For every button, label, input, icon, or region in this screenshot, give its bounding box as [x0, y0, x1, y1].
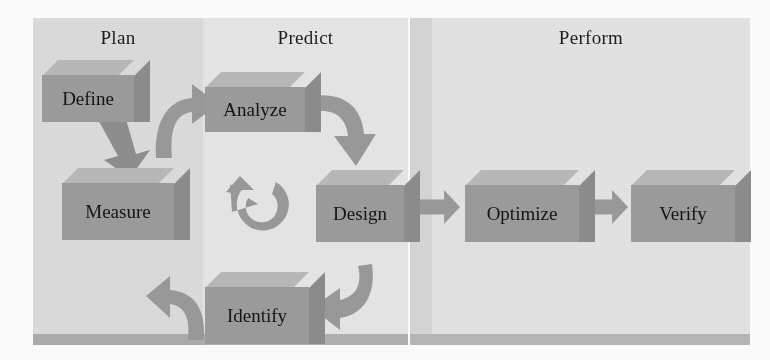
step-box-measure[interactable]: Measure [62, 168, 174, 240]
connector-identify-to-measure [140, 262, 212, 342]
step-label-define: Define [42, 75, 134, 122]
step-label-optimize: Optimize [465, 185, 579, 242]
phase-label-predict: Predict [203, 27, 408, 49]
diagram-canvas: Plan Predict Perform [0, 0, 770, 360]
step-box-analyze[interactable]: Analyze [205, 72, 305, 132]
box-top-face [465, 170, 579, 186]
box-top-face [205, 272, 309, 288]
phase-label-plan: Plan [33, 27, 203, 49]
step-label-analyze: Analyze [205, 87, 305, 132]
panel-baseline-perform [410, 334, 750, 345]
step-label-design: Design [316, 185, 404, 242]
phase-label-perform: Perform [432, 27, 750, 49]
box-top-face [205, 72, 305, 88]
box-top-face [62, 168, 174, 184]
step-label-identify: Identify [205, 287, 309, 344]
connector-iteration-loop [224, 176, 296, 240]
connector-analyze-to-design [312, 92, 382, 172]
box-top-face [631, 170, 735, 186]
step-box-design[interactable]: Design [316, 170, 404, 242]
box-top-face [42, 60, 134, 76]
step-label-verify: Verify [631, 185, 735, 242]
step-label-measure: Measure [62, 183, 174, 240]
step-box-define[interactable]: Define [42, 60, 134, 122]
step-box-optimize[interactable]: Optimize [465, 170, 579, 242]
step-box-identify[interactable]: Identify [205, 272, 309, 344]
box-top-face [316, 170, 404, 186]
step-box-verify[interactable]: Verify [631, 170, 735, 242]
